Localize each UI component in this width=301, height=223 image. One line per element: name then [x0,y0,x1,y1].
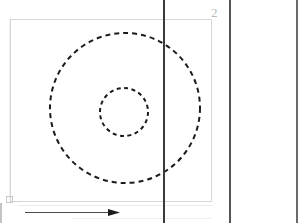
direction-arrow-group [25,209,120,216]
technical-drawing-svg [0,0,301,223]
outer-dashed-circle-shape [50,33,200,183]
direction-arrow-head [108,209,120,216]
inner-dashed-circle-shape [100,88,148,136]
reference-numeral-2: 2 [211,6,218,19]
figure-canvas: 2 [0,0,301,223]
boundary-rectangle-shape [11,20,212,202]
